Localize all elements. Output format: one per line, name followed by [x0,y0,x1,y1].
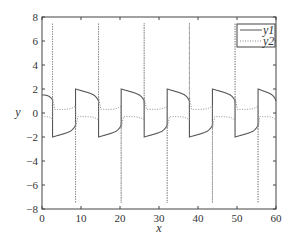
x-axis-label: x [155,221,162,235]
legend-label-y2: y2 [262,34,274,48]
y-tick-label: −8 [26,203,38,215]
y-tick-label: 8 [33,11,39,23]
line-chart: 0102030405060 −8−6−4−202468 x y y1 y2 [0,0,299,247]
y-tick-label: 2 [33,83,39,95]
x-tick-label: 60 [271,212,283,224]
x-tick-label: 50 [232,212,244,224]
x-tick-label: 40 [193,212,205,224]
y-tick-label: 4 [33,59,39,71]
legend: y1 y2 [237,23,275,48]
y-tick-label: −2 [26,131,38,143]
y-tick-label: −6 [26,179,38,191]
y-tick-label: 6 [33,35,39,47]
y-axis-label: y [14,105,21,119]
y-tick-label: −4 [26,155,38,167]
x-tick-label: 0 [39,212,45,224]
x-tick-label: 20 [115,212,127,224]
x-tick-label: 10 [76,212,88,224]
y-tick-label: 0 [33,107,39,119]
